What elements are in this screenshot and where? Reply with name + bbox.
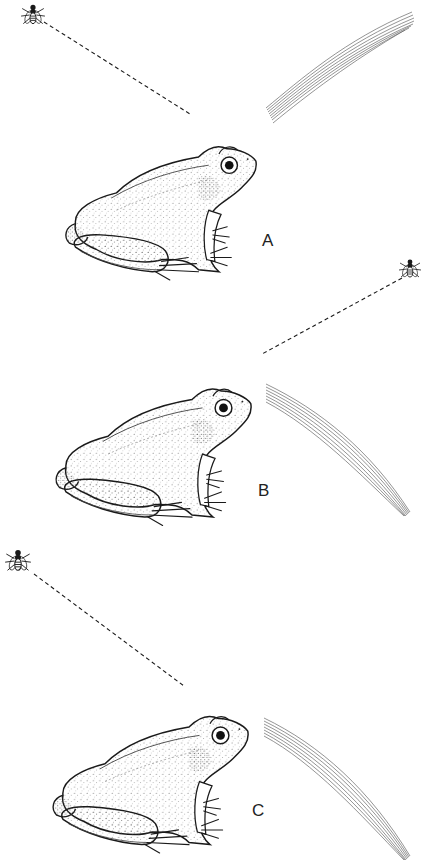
sight-line [34,574,184,686]
panel-a: A [0,0,427,290]
panel-label: A [262,232,273,249]
panel-b-drawing [0,250,427,550]
panel-b: B [0,250,427,550]
fly-icon [5,550,31,571]
striped-curve [266,384,410,516]
fly-icon [21,5,45,25]
sight-line [44,22,190,114]
frog-illustration [53,717,248,853]
panel-label: B [258,482,269,499]
panel-c-drawing [0,540,427,862]
sight-line [262,278,402,354]
panel-a-drawing [0,0,427,290]
striped-curve [266,12,414,123]
fly-icon [399,260,421,278]
striped-curve [264,718,410,860]
panel-c: C [0,540,427,862]
frog-illustration [56,389,251,525]
panel-label: C [252,802,264,819]
